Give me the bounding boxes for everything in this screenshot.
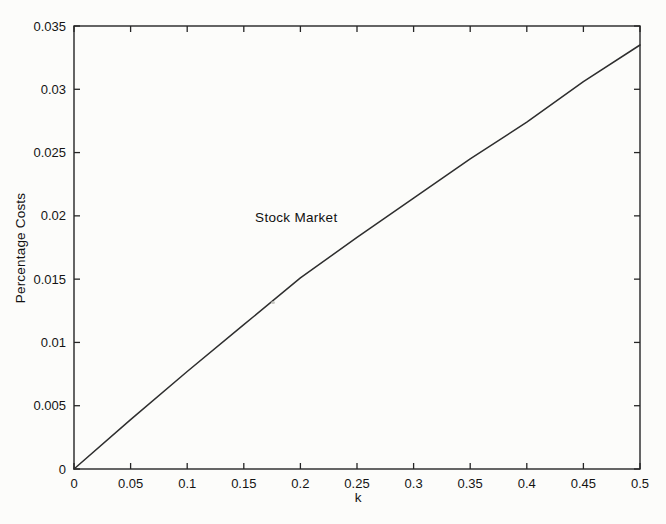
y-tick-label: 0.025 <box>33 145 66 160</box>
x-tick-label: 0.25 <box>344 476 369 491</box>
x-tick-label: 0.3 <box>405 476 423 491</box>
y-tick-label: 0.02 <box>41 208 66 223</box>
x-tick-label: 0.1 <box>178 476 196 491</box>
y-axis-label: Percentage Costs <box>13 193 28 304</box>
x-tick-label: 0.5 <box>631 476 649 491</box>
x-tick-label: 0.2 <box>291 476 309 491</box>
figure: 00.050.10.150.20.250.30.350.40.450.500.0… <box>0 0 666 524</box>
x-tick-label: 0.05 <box>118 476 143 491</box>
y-tick-label: 0.03 <box>41 82 66 97</box>
y-tick-label: 0.01 <box>41 335 66 350</box>
x-tick-label: 0.35 <box>458 476 483 491</box>
x-tick-label: 0 <box>70 476 77 491</box>
series-line-stock-market <box>74 45 640 469</box>
scan-artifact <box>271 301 275 304</box>
x-tick-label: 0.45 <box>571 476 596 491</box>
y-tick-label: 0.015 <box>33 272 66 287</box>
y-tick-label: 0.005 <box>33 398 66 413</box>
chart-canvas: 00.050.10.150.20.250.30.350.40.450.500.0… <box>0 0 666 524</box>
y-tick-label: 0 <box>59 462 66 477</box>
x-tick-label: 0.4 <box>518 476 536 491</box>
x-axis-label: k <box>355 490 362 505</box>
y-tick-label: 0.035 <box>33 19 66 34</box>
series-annotation: Stock Market <box>255 210 337 225</box>
plot-box <box>74 26 640 469</box>
x-tick-label: 0.15 <box>231 476 256 491</box>
